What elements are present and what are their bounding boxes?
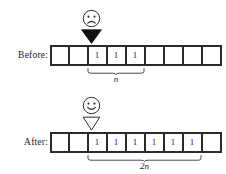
before-tape: 1 1 1 [50,45,222,66]
after-row-label: After: [4,137,48,147]
sad-face-icon [82,9,101,28]
tape-divider [106,45,108,66]
tape-divider [163,132,165,153]
tape-divider [87,45,89,66]
before-row: Before: [0,0,226,87]
filled-down-triangle-icon [81,29,102,44]
tape-cell: 1 [147,136,161,149]
tape-diagram: Before: [0,0,226,174]
tape-divider [182,45,184,66]
tape-divider [106,132,108,153]
tape-divider [87,132,89,153]
tape-cell: 1 [109,136,123,149]
tape-divider [125,45,127,66]
after-brace-label: 2n [87,161,202,171]
tape-divider [125,132,127,153]
before-brace-label: n [87,74,145,84]
tape-divider [182,132,184,153]
tape-divider [201,132,203,153]
tape-cell: 1 [90,49,104,62]
tape-cell: 1 [90,136,104,149]
tape-cell: 1 [166,136,180,149]
tape-divider [201,45,203,66]
tape-divider [50,132,52,153]
tape-bottom-edge [50,64,222,66]
tape-divider [220,132,222,153]
before-row-label: Before: [4,50,48,60]
tape-divider [68,132,70,153]
tape-top-edge [50,45,222,47]
tape-cell: 1 [128,136,142,149]
happy-face-icon [82,96,101,115]
tape-divider [68,45,70,66]
tape-cell: 1 [185,136,199,149]
tape-bottom-edge [50,151,222,153]
tape-cell: 1 [109,49,123,62]
tape-divider [50,45,52,66]
tape-divider [163,45,165,66]
hollow-down-triangle-icon [81,116,102,131]
tape-cell: 1 [128,49,142,62]
tape-divider [144,132,146,153]
after-row: After: [0,87,226,174]
after-tape: 1 1 1 1 1 1 [50,132,222,153]
tape-divider [220,45,222,66]
tape-divider [144,45,146,66]
tape-top-edge [50,132,222,134]
